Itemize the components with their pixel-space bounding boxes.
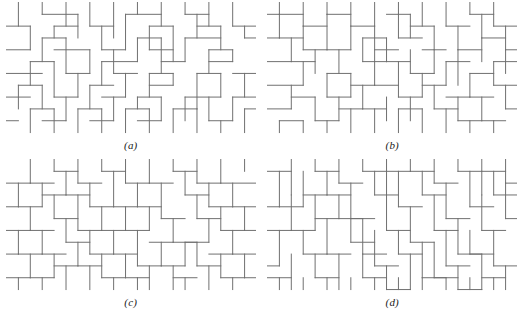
maze-svg-a	[6, 2, 256, 136]
maze-segments-d	[268, 159, 518, 289]
maze-plot-a	[6, 2, 256, 136]
maze-segments-c	[6, 159, 256, 289]
maze-segments-b	[268, 2, 518, 132]
maze-svg-d	[267, 159, 517, 293]
maze-svg-b	[267, 2, 517, 136]
panel-c: (c)	[0, 157, 262, 314]
maze-svg-c	[6, 159, 256, 293]
panel-label-b: (b)	[386, 140, 399, 151]
panel-label-d: (d)	[386, 297, 399, 308]
panel-a: (a)	[0, 0, 262, 157]
panel-d: (d)	[262, 157, 523, 314]
panel-b: (b)	[262, 0, 523, 157]
panel-label-a: (a)	[124, 140, 137, 151]
panel-label-c: (c)	[124, 297, 137, 308]
maze-segments-a	[6, 2, 256, 132]
maze-plot-b	[267, 2, 517, 136]
maze-plot-d	[267, 159, 517, 293]
maze-plot-c	[6, 159, 256, 293]
figure-container: (a) (b) (c) (d)	[0, 0, 523, 314]
